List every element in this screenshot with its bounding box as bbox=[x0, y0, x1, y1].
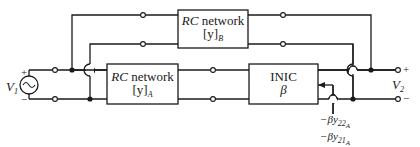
control-arrowhead bbox=[318, 82, 325, 88]
annotation-prefix: −βy bbox=[320, 130, 338, 142]
terminal bbox=[281, 42, 286, 47]
matrix-subscript: A bbox=[148, 90, 153, 99]
annotation-y21: −βy21A bbox=[320, 131, 350, 147]
inic-beta: β bbox=[280, 82, 286, 97]
annotation-y22: −βy22A bbox=[320, 114, 350, 130]
junction-dot bbox=[87, 96, 92, 101]
inic-label: INIC β bbox=[249, 70, 318, 96]
output-terminal-minus bbox=[396, 97, 401, 102]
terminal bbox=[53, 68, 58, 73]
source-label: V1 bbox=[6, 80, 18, 96]
source-label-v: V bbox=[6, 79, 14, 94]
terminal bbox=[281, 13, 286, 18]
output-plus: + bbox=[403, 64, 409, 75]
matrix-symbol: [y] bbox=[132, 82, 147, 97]
source-minus: − bbox=[21, 94, 27, 105]
junction-dot bbox=[69, 67, 74, 72]
terminal bbox=[211, 68, 216, 73]
rc-network-b-label: RC network [y]B bbox=[178, 14, 248, 43]
output-label-v: V bbox=[392, 77, 400, 92]
rc-network-a-label: RC network [y]A bbox=[107, 70, 178, 99]
terminal bbox=[141, 13, 146, 18]
terminal bbox=[53, 97, 58, 102]
source-label-sub: 1 bbox=[14, 87, 18, 96]
junction-dot bbox=[350, 96, 355, 101]
junction-dot bbox=[368, 67, 373, 72]
terminal bbox=[141, 42, 146, 47]
annotation-subsub: A bbox=[346, 122, 350, 130]
rc-label-italic: RC bbox=[182, 13, 199, 28]
annotation-sub: 21 bbox=[338, 136, 346, 145]
output-minus: − bbox=[403, 93, 409, 104]
matrix-subscript: B bbox=[218, 34, 223, 43]
terminal bbox=[211, 97, 216, 102]
rc-label-italic: RC bbox=[111, 69, 128, 84]
annotation-prefix: −βy bbox=[320, 113, 338, 125]
output-terminal-plus bbox=[396, 68, 401, 73]
matrix-symbol: [y] bbox=[203, 26, 218, 41]
annotation-subsub: A bbox=[346, 139, 350, 147]
annotation-sub: 22 bbox=[338, 119, 346, 128]
output-label-sub: 2 bbox=[400, 85, 404, 94]
source-plus: + bbox=[21, 67, 27, 78]
wire-top-outer bbox=[72, 15, 178, 70]
output-label: V2 bbox=[392, 78, 404, 94]
